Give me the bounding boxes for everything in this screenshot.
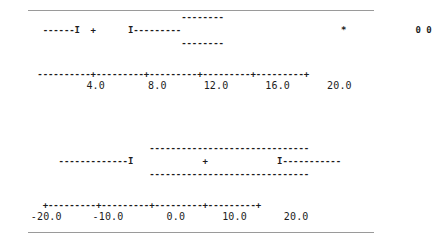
top-divider-rule <box>28 10 374 11</box>
panel2-axis-line: +---------+---------+---------+---------… <box>0 200 261 210</box>
panel2-box-bottom-line: ------------------------------ <box>0 169 309 179</box>
bottom-divider-rule <box>28 232 374 233</box>
panel1-whisker-row: ------I + I--------- * 0 0 <box>0 25 432 35</box>
panel2-axis-tick-labels: -20.0 -10.0 0.0 10.0 20.0 <box>0 211 309 223</box>
panel2-box-top-line: ------------------------------ <box>0 143 309 153</box>
panel1-axis-line: ----------+---------+---------+---------… <box>0 69 309 79</box>
panel1-box-bottom-line: -------- <box>0 38 224 48</box>
panel2-whisker-row: -------------I + I----------- <box>0 156 341 166</box>
panel1-box-top-line: -------- <box>0 12 224 22</box>
panel1-axis-tick-labels: 4.0 8.0 12.0 16.0 20.0 <box>0 80 352 92</box>
